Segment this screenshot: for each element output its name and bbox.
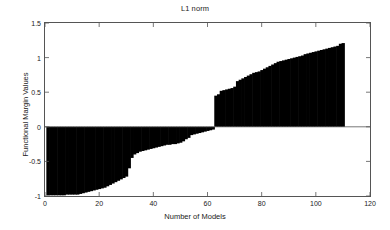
y-tick-label: -0.5	[1, 158, 41, 165]
x-tick-label: 40	[149, 200, 157, 207]
x-tick-label: 60	[204, 200, 212, 207]
x-tick-label: 0	[43, 200, 47, 207]
y-axis-tick-labels: -1-0.500.511.5	[0, 0, 41, 230]
x-tick-label: 20	[95, 200, 103, 207]
x-tick-label: 80	[258, 200, 266, 207]
y-tick-label: 0.5	[1, 89, 41, 96]
x-axis-label: Number of Models	[0, 212, 390, 221]
y-tick-label: -1	[1, 193, 41, 200]
chart-figure: L1 norm Functional Margin Values -1-0.50…	[0, 0, 390, 230]
chart-title: L1 norm	[0, 4, 390, 13]
bar	[342, 43, 345, 127]
plot-area	[44, 22, 371, 197]
bar-series-svg	[45, 23, 370, 196]
bar-group	[46, 43, 345, 195]
y-tick-label: 1.5	[1, 20, 41, 27]
y-tick-label: 1	[1, 54, 41, 61]
bar	[212, 127, 215, 130]
x-axis-tick-labels: 020406080100120	[0, 200, 390, 212]
y-tick-label: 0	[1, 123, 41, 130]
x-tick-label: 100	[310, 200, 322, 207]
x-tick-label: 120	[364, 200, 376, 207]
